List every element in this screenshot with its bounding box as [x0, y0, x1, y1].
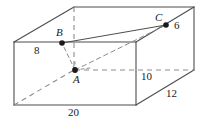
segment-bc	[62, 25, 166, 43]
edge-top-left-receding	[14, 7, 74, 42]
segment-ab	[62, 43, 75, 70]
construction-segments	[62, 25, 166, 70]
point-b-dot	[59, 40, 65, 46]
hidden-edge-bottom-left-receding	[14, 70, 74, 105]
dimension-label-depth-front: 10	[141, 71, 152, 82]
dimension-label-segment-right: 6	[174, 20, 180, 31]
point-b-label: B	[56, 27, 63, 38]
point-a-label: A	[73, 74, 80, 85]
vertex-dots	[59, 22, 169, 73]
point-c-dot	[163, 22, 169, 28]
point-c-label: C	[155, 12, 162, 23]
dimension-label-width: 20	[68, 107, 79, 118]
dimension-label-height: 8	[34, 45, 40, 56]
rectangular-prism-figure: B A C 8 20 10 12 6	[0, 0, 208, 125]
dimension-label-depth-diagonal: 12	[166, 88, 177, 99]
